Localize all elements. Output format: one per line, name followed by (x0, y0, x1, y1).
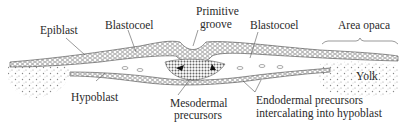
label-mesodermal-2: precursors (174, 109, 222, 121)
label-yolk: Yolk (356, 70, 378, 82)
label-epiblast: Epiblast (40, 24, 78, 36)
label-primitive-groove-2: groove (200, 18, 232, 30)
yolk-left (8, 62, 70, 98)
label-area-opaca: Area opaca (338, 19, 390, 31)
label-primitive-groove-1: Primitive (196, 5, 239, 17)
label-blastocoel-right: Blastocoel (250, 19, 299, 31)
label-endodermal-1: Endodermal precursors (256, 94, 363, 106)
mesoderm-region (165, 59, 225, 80)
label-blastocoel-left: Blastocoel (105, 19, 154, 31)
label-endodermal-2: intercalating into hypoblast (256, 107, 382, 119)
label-hypoblast: Hypoblast (71, 91, 118, 103)
label-mesodermal-1: Mesodermal (170, 97, 227, 109)
